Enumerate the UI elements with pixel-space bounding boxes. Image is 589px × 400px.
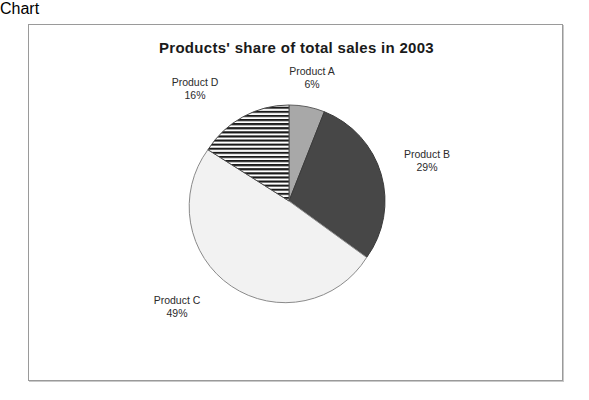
pie-label-product-c-name: Product C [134,294,220,307]
pie-label-product-d: Product D 16% [152,76,238,102]
chart-frame: Products' share of total sales in 2003 [28,24,563,381]
pie-label-product-b: Product B 29% [384,148,470,174]
pie-label-product-b-name: Product B [384,148,470,161]
pie-label-product-c: Product C 49% [134,294,220,320]
pie-label-product-d-value: 16% [152,89,238,102]
pie-chart: Product A 6% Product B 29% Product C 49%… [29,25,564,382]
pie-label-product-d-name: Product D [152,76,238,89]
pie-label-product-a-value: 6% [269,78,355,91]
pie-label-product-b-value: 29% [384,161,470,174]
pie-label-product-a: Product A 6% [269,65,355,91]
pie-label-product-a-name: Product A [269,65,355,78]
pie-label-product-c-value: 49% [134,307,220,320]
